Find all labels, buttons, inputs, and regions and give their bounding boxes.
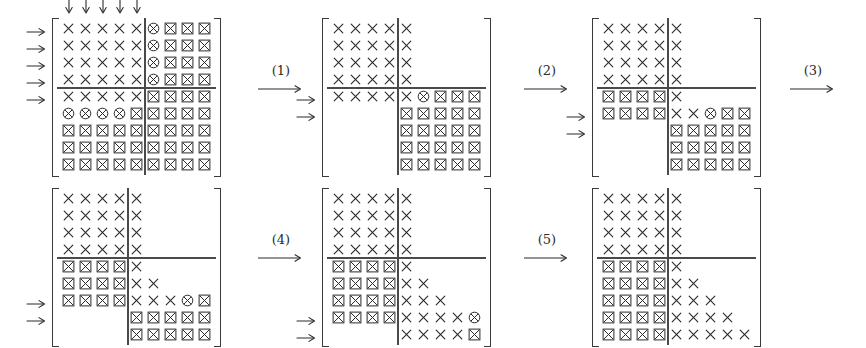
plain-cross-icon <box>94 241 111 258</box>
plain-cross-icon <box>432 326 449 343</box>
plain-cross-icon <box>381 190 398 207</box>
boxed-cross-icon <box>415 139 432 156</box>
boxed-cross-icon <box>60 122 77 139</box>
plain-cross-icon <box>600 241 617 258</box>
boxed-cross-icon <box>128 139 145 156</box>
column-marker-arrow <box>80 0 92 16</box>
boxed-cross-icon <box>466 122 483 139</box>
boxed-cross-icon <box>381 258 398 275</box>
matrix-5-grid <box>330 190 483 343</box>
boxed-cross-icon <box>145 88 162 105</box>
boxed-cross-icon <box>196 37 213 54</box>
boxed-cross-icon <box>111 122 128 139</box>
plain-cross-icon <box>128 71 145 88</box>
row-marker-arrow <box>26 312 48 324</box>
boxed-cross-icon <box>466 326 483 343</box>
boxed-cross-icon <box>398 122 415 139</box>
circled-cross-icon <box>60 105 77 122</box>
plain-cross-icon <box>77 190 94 207</box>
plain-cross-icon <box>111 207 128 224</box>
plain-cross-icon <box>128 20 145 37</box>
boxed-cross-icon <box>145 139 162 156</box>
vertical-partition-rule <box>667 18 668 175</box>
boxed-cross-icon <box>634 88 651 105</box>
plain-cross-icon <box>128 241 145 258</box>
plain-cross-icon <box>668 190 685 207</box>
boxed-cross-icon <box>77 156 94 173</box>
boxed-cross-icon <box>685 156 702 173</box>
plain-cross-icon <box>685 326 702 343</box>
column-marker-arrow <box>63 0 75 16</box>
boxed-cross-icon <box>617 88 634 105</box>
boxed-cross-icon <box>432 105 449 122</box>
plain-cross-icon <box>685 292 702 309</box>
boxed-cross-icon <box>128 122 145 139</box>
boxed-cross-icon <box>330 292 347 309</box>
plain-cross-icon <box>381 207 398 224</box>
boxed-cross-icon <box>162 105 179 122</box>
step-label-3: (3) <box>790 63 836 89</box>
plain-cross-icon <box>617 207 634 224</box>
horizontal-partition-rule <box>57 257 216 258</box>
column-marker-arrow <box>97 0 109 16</box>
matrix-1-grid <box>60 20 213 173</box>
boxed-cross-icon <box>634 258 651 275</box>
boxed-cross-icon <box>179 71 196 88</box>
boxed-cross-icon <box>196 309 213 326</box>
bracket-left <box>322 188 329 347</box>
plain-cross-icon <box>77 88 94 105</box>
column-marker-arrow <box>114 0 126 16</box>
plain-cross-icon <box>398 37 415 54</box>
plain-cross-icon <box>668 37 685 54</box>
plain-cross-icon <box>398 88 415 105</box>
plain-cross-icon <box>94 71 111 88</box>
boxed-cross-icon <box>600 258 617 275</box>
bracket-right <box>754 188 761 347</box>
row-marker-arrow <box>26 23 48 35</box>
plain-cross-icon <box>651 37 668 54</box>
plain-cross-icon <box>381 20 398 37</box>
boxed-cross-icon <box>162 54 179 71</box>
plain-cross-icon <box>668 20 685 37</box>
boxed-cross-icon <box>736 139 753 156</box>
boxed-cross-icon <box>128 105 145 122</box>
plain-cross-icon <box>415 326 432 343</box>
matrix-2 <box>322 18 491 177</box>
plain-cross-icon <box>330 37 347 54</box>
boxed-cross-icon <box>179 326 196 343</box>
plain-cross-icon <box>94 37 111 54</box>
boxed-cross-icon <box>634 292 651 309</box>
boxed-cross-icon <box>94 156 111 173</box>
boxed-cross-icon <box>145 122 162 139</box>
plain-cross-icon <box>111 20 128 37</box>
boxed-cross-icon <box>719 139 736 156</box>
plain-cross-icon <box>364 71 381 88</box>
circled-cross-icon <box>466 309 483 326</box>
plain-cross-icon <box>651 54 668 71</box>
horizontal-partition-rule <box>597 87 756 88</box>
plain-cross-icon <box>634 37 651 54</box>
boxed-cross-icon <box>162 326 179 343</box>
plain-cross-icon <box>634 190 651 207</box>
plain-cross-icon <box>651 241 668 258</box>
boxed-cross-icon <box>617 258 634 275</box>
plain-cross-icon <box>128 258 145 275</box>
boxed-cross-icon <box>128 156 145 173</box>
plain-cross-icon <box>702 309 719 326</box>
plain-cross-icon <box>719 326 736 343</box>
plain-cross-icon <box>398 54 415 71</box>
plain-cross-icon <box>668 241 685 258</box>
plain-cross-icon <box>600 207 617 224</box>
plain-cross-icon <box>77 241 94 258</box>
plain-cross-icon <box>364 224 381 241</box>
boxed-cross-icon <box>685 139 702 156</box>
plain-cross-icon <box>600 20 617 37</box>
row-marker-arrow <box>296 108 318 120</box>
boxed-cross-icon <box>330 275 347 292</box>
plain-cross-icon <box>398 292 415 309</box>
plain-cross-icon <box>111 190 128 207</box>
vertical-partition-rule <box>127 188 128 345</box>
boxed-cross-icon <box>179 37 196 54</box>
plain-cross-icon <box>347 71 364 88</box>
boxed-cross-icon <box>60 275 77 292</box>
